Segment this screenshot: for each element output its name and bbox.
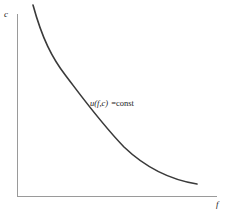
annotation-arguments: (f,c) xyxy=(94,98,108,108)
plot-area xyxy=(0,0,232,223)
indifference-curve-figure: c f u(f,c)=const xyxy=(0,0,232,223)
curve-annotation: u(f,c)=const xyxy=(90,99,134,108)
annotation-value: const xyxy=(116,98,134,108)
y-axis-label: c xyxy=(4,10,8,19)
x-axis-label: f xyxy=(216,200,219,209)
annotation-equals: = xyxy=(108,98,116,108)
indifference-curve xyxy=(33,5,197,184)
